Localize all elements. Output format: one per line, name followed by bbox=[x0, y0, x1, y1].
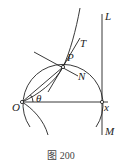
label-x: x bbox=[104, 102, 109, 113]
label-O: O bbox=[12, 102, 20, 113]
tangent-line-T bbox=[48, 38, 80, 92]
label-M: M bbox=[105, 126, 114, 137]
label-P: P bbox=[67, 52, 74, 63]
circle-arc bbox=[23, 64, 103, 127]
diagram-figure bbox=[0, 0, 122, 167]
point-P bbox=[61, 65, 64, 68]
figure-caption: 图 200 bbox=[0, 147, 122, 162]
label-T: T bbox=[80, 38, 86, 49]
label-L: L bbox=[105, 11, 111, 22]
label-theta: θ bbox=[36, 93, 41, 104]
label-N: N bbox=[78, 71, 85, 82]
point-O bbox=[20, 100, 23, 103]
